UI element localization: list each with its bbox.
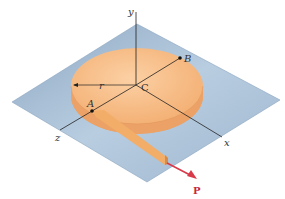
y-axis-label: y (127, 6, 134, 17)
point-a-label: A (86, 98, 94, 109)
point-b-dot (178, 56, 182, 60)
force-arrow-line (167, 163, 192, 176)
z-axis-label: z (54, 132, 61, 143)
diagram-canvas: y z x C A B r P (0, 0, 285, 199)
point-a-dot (90, 109, 94, 113)
point-b-label: B (183, 53, 191, 64)
force-arrowhead (187, 170, 197, 179)
center-label: C (141, 82, 149, 93)
x-axis-label: x (224, 137, 230, 148)
force-label: P (193, 185, 201, 196)
